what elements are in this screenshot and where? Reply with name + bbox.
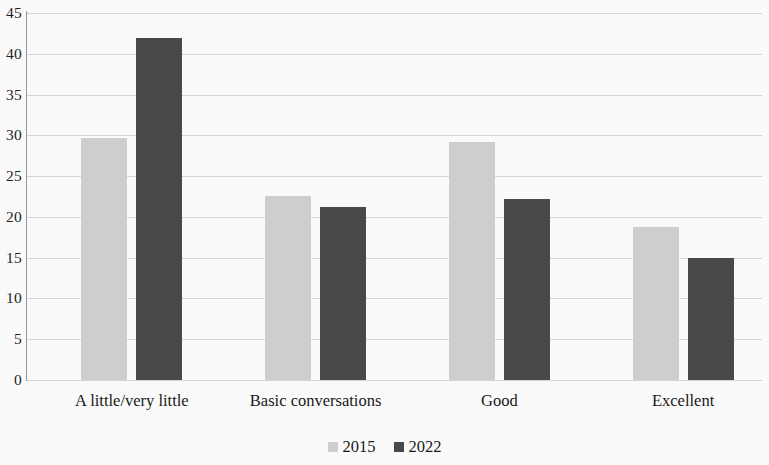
bar-2022-basic-conversations bbox=[320, 207, 366, 380]
y-tick-label-20: 20 bbox=[0, 209, 22, 225]
y-tick-label-25: 25 bbox=[0, 168, 22, 184]
legend-swatch-icon-2022 bbox=[394, 442, 404, 452]
legend-entry-2022: 2022 bbox=[394, 437, 442, 457]
y-tick-label-35: 35 bbox=[0, 87, 22, 103]
bar-2022-good bbox=[504, 199, 550, 380]
y-tick-label-30: 30 bbox=[0, 127, 22, 143]
bars-layer bbox=[27, 10, 762, 380]
bar-2022-excellent bbox=[688, 258, 734, 380]
bar-2015-basic-conversations bbox=[265, 196, 311, 380]
y-tick-label-10: 10 bbox=[0, 290, 22, 306]
legend-label-2015: 2015 bbox=[343, 437, 376, 457]
legend-entry-2015: 2015 bbox=[328, 437, 376, 457]
gridline-0 bbox=[27, 380, 762, 381]
bar-2015-good bbox=[449, 142, 495, 380]
y-tick-label-5: 5 bbox=[0, 331, 22, 347]
y-tick-label-45: 45 bbox=[0, 5, 22, 21]
bar-2015-a-little-very-little bbox=[81, 138, 127, 380]
y-tick-label-40: 40 bbox=[0, 46, 22, 62]
chart-legend: 2015 2022 bbox=[0, 437, 769, 457]
y-tick-label-0: 0 bbox=[0, 372, 22, 388]
x-category-label-3: Excellent bbox=[573, 392, 769, 410]
bar-2015-excellent bbox=[633, 227, 679, 380]
legend-label-2022: 2022 bbox=[409, 437, 442, 457]
bar-2022-a-little-very-little bbox=[136, 38, 182, 380]
bar-chart: 051015202530354045 A little/very littleB… bbox=[0, 0, 769, 465]
legend-swatch-icon-2015 bbox=[328, 442, 338, 452]
y-axis-tick-labels: 051015202530354045 bbox=[0, 0, 22, 465]
y-tick-label-15: 15 bbox=[0, 250, 22, 266]
